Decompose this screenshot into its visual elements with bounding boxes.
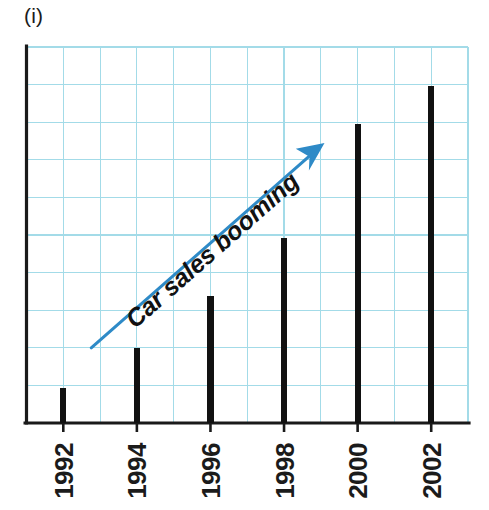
x-axis-ticks: 199219941996199820002002 — [49, 423, 447, 499]
x-tick-label: 1996 — [196, 443, 226, 499]
x-tick-label: 1992 — [49, 443, 79, 499]
bar-chart: 199219941996199820002002 Car sales boomi… — [0, 0, 489, 510]
x-tick-label: 1998 — [270, 443, 300, 499]
x-tick-label: 1994 — [122, 442, 152, 499]
figure-container: (i) 199219941996199820002002 Car sales b… — [0, 0, 489, 510]
x-tick-label: 2000 — [343, 443, 373, 499]
bar — [207, 296, 213, 423]
bar — [428, 86, 434, 423]
bar — [281, 238, 287, 423]
bar — [60, 388, 66, 423]
x-tick-label: 2002 — [417, 443, 447, 499]
bar — [134, 348, 140, 423]
bar — [355, 124, 361, 423]
